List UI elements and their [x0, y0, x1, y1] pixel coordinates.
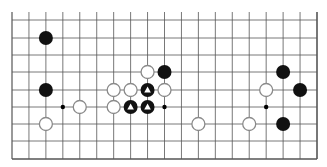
hoshi-point-icon	[61, 105, 65, 109]
white-stone[interactable]	[158, 84, 171, 97]
white-stone[interactable]	[260, 84, 273, 97]
black-stone-icon	[276, 65, 290, 79]
black-stone[interactable]	[276, 117, 290, 131]
white-stone-icon	[124, 84, 137, 97]
black-stone[interactable]	[276, 65, 290, 79]
white-stone-icon	[260, 84, 273, 97]
black-stone-icon	[39, 83, 53, 97]
black-stone[interactable]	[293, 83, 307, 97]
white-stone-icon	[107, 84, 120, 97]
hoshi-point-icon	[162, 105, 166, 109]
white-stone[interactable]	[39, 118, 52, 131]
white-stone-icon	[141, 66, 154, 79]
black-stone[interactable]	[124, 100, 138, 114]
black-stone[interactable]	[39, 83, 53, 97]
white-stone[interactable]	[107, 101, 120, 114]
white-stone[interactable]	[107, 84, 120, 97]
white-stone-icon	[158, 84, 171, 97]
black-stone[interactable]	[141, 100, 155, 114]
black-stone-icon	[276, 117, 290, 131]
go-board[interactable]	[0, 0, 327, 167]
black-stone-icon	[158, 65, 172, 79]
white-stone[interactable]	[124, 84, 137, 97]
white-stone[interactable]	[243, 118, 256, 131]
white-stone[interactable]	[192, 118, 205, 131]
hoshi-point-icon	[264, 105, 268, 109]
stones-layer	[39, 31, 307, 131]
black-stone-icon	[39, 31, 53, 45]
white-stone-icon	[73, 101, 86, 114]
black-stone-icon	[293, 83, 307, 97]
white-stone-icon	[107, 101, 120, 114]
white-stone-icon	[192, 118, 205, 131]
white-stone[interactable]	[141, 66, 154, 79]
black-stone[interactable]	[141, 83, 155, 97]
black-stone[interactable]	[158, 65, 172, 79]
white-stone[interactable]	[73, 101, 86, 114]
white-stone-icon	[39, 118, 52, 131]
black-stone[interactable]	[39, 31, 53, 45]
white-stone-icon	[243, 118, 256, 131]
